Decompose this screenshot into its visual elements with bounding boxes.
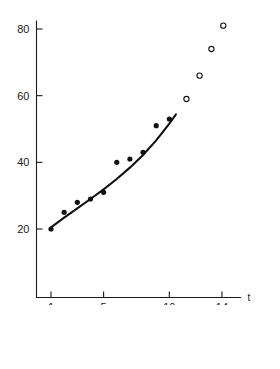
- svg-text:10: 10: [163, 301, 175, 306]
- figure: 20406080151014t Legend: Demands Fit: [0, 0, 280, 369]
- series-demands-points: [48, 116, 172, 231]
- y-axis-ticks: [37, 29, 43, 229]
- svg-text:40: 40: [17, 156, 29, 168]
- chart-svg: 20406080151014t: [0, 0, 280, 305]
- series-fit-line: [51, 114, 176, 227]
- plot-area: 20406080151014t: [0, 0, 280, 305]
- x-axis-ticks: [51, 292, 222, 298]
- svg-text:1: 1: [48, 301, 54, 306]
- svg-text:t: t: [248, 292, 251, 303]
- svg-text:5: 5: [101, 301, 107, 306]
- svg-text:14: 14: [216, 301, 228, 306]
- legend: Legend: Demands Fit Forecasts: [0, 306, 280, 369]
- svg-text:60: 60: [17, 90, 29, 102]
- series-forecasts-points: [184, 23, 226, 102]
- svg-text:80: 80: [17, 23, 29, 35]
- svg-text:20: 20: [17, 223, 29, 235]
